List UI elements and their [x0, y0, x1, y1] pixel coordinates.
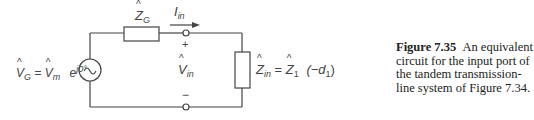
resistor-zg [124, 27, 159, 41]
z1-symbol: Z [286, 62, 294, 77]
vm-symbol: V [45, 66, 53, 80]
plus-sign: + [182, 38, 188, 50]
figure-caption: Figure 7.35 An equivalent circuit for th… [396, 41, 534, 95]
vg-sub: G [24, 72, 31, 82]
minus-sign: − [182, 88, 189, 102]
label-iin: Iin [174, 4, 185, 21]
zg-symbol: Z [135, 8, 143, 23]
vg-symbol: V [16, 66, 24, 80]
zg-sub: G [143, 15, 150, 25]
terminal-top [183, 30, 189, 36]
vm-sub: m [53, 72, 61, 82]
label-vin: Vin [178, 62, 194, 79]
terminal-bottom [183, 104, 189, 110]
zin-sub: in [264, 69, 271, 79]
iin-symbol: I [174, 4, 178, 19]
zin-arg-close: ) [331, 62, 335, 77]
z1-sub: 1 [294, 69, 299, 79]
vin-symbol: V [178, 62, 187, 77]
label-source: VG = Vm ej0° [16, 64, 87, 82]
zin-symbol: Z [256, 62, 264, 77]
exp-power: j0° [76, 64, 87, 74]
current-arrow-head [192, 22, 200, 28]
source-equals: = [34, 66, 41, 80]
label-zin: Zin = Z1 (−d1) [256, 62, 335, 79]
iin-sub: in [178, 11, 185, 21]
resistor-zin [235, 52, 250, 88]
label-zg: ZG [135, 8, 150, 25]
figure-label: Figure 7.35 [396, 40, 456, 54]
zin-equals: = [275, 62, 283, 77]
zin-arg: (−d [306, 62, 325, 77]
vin-sub: in [187, 69, 194, 79]
